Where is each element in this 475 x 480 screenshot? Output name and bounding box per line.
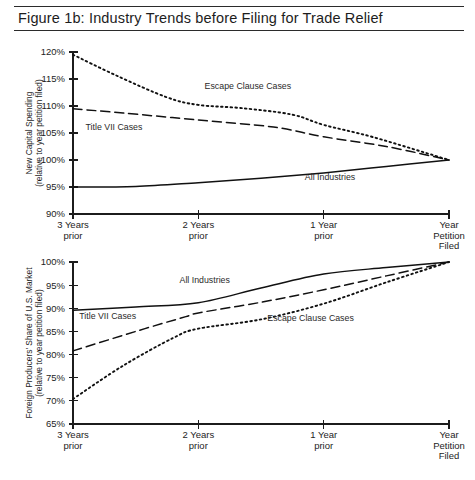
y-tick-label: 95% [46,280,66,291]
y-tick-label: 70% [46,395,66,406]
y-tick-label: 80% [46,349,66,360]
x-tick-label: prior [63,230,82,241]
chart-svg-top: 90%95%100%105%110%115%120%3 Yearsprior2 … [0,36,475,258]
x-tick-label: Petition [433,440,465,451]
y-tick-label: 120% [41,46,66,57]
y-axis-title-line1: Foreign Producers' Share of U.S. Market [24,267,34,419]
chart-panel-foreign-producers-share: 65%70%75%80%85%90%95%100%3 Yearsprior2 Y… [0,248,475,480]
series-line [73,262,449,310]
y-tick-label: 115% [41,73,65,84]
y-axis-title: Foreign Producers' Share of U.S. Market(… [24,267,44,419]
x-tick-label: prior [314,440,333,451]
x-tick-label: 2 Years [182,429,214,440]
y-tick-label: 90% [46,303,66,314]
x-tick-label: Filed [439,450,460,461]
y-tick-label: 90% [46,208,66,219]
figure-title: Figure 1b: Industry Trends before Filing… [18,10,464,26]
series-annotation: All Industries [305,172,356,182]
y-tick-label: 100% [41,256,66,267]
series-annotation: Title VII Cases [79,311,136,321]
series-line [73,262,449,399]
series-line [73,109,449,160]
y-tick-label: 100% [41,154,66,165]
series-line [73,262,449,351]
x-tick-label: 2 Years [182,219,214,230]
y-axis-title-line1: New Capital Spending [24,91,34,174]
y-tick-label: 110% [41,100,65,111]
y-axis-title-line2: (relative to year petition filed) [34,79,44,187]
series-line [73,55,449,160]
x-tick-label: 3 Years [57,429,89,440]
x-tick-label: 1 Year [310,219,337,230]
series-annotation: All Industries [180,275,231,285]
y-tick-label: 95% [46,181,66,192]
series-line [73,160,449,187]
y-axis-title-line2: (relative to year petition filed) [34,289,44,397]
x-tick-label: prior [314,230,333,241]
y-tick-label: 105% [41,127,66,138]
chart-panel-new-capital-spending: 90%95%100%105%110%115%120%3 Yearsprior2 … [0,36,475,258]
y-tick-label: 65% [46,418,66,429]
chart-svg-bottom: 65%70%75%80%85%90%95%100%3 Yearsprior2 Y… [0,248,475,480]
x-tick-label: prior [189,230,208,241]
series-annotation: Title VII Cases [86,122,143,132]
x-tick-label: prior [189,440,208,451]
y-tick-label: 75% [46,372,66,383]
x-tick-label: Year [439,429,458,440]
figure-title-band: Figure 1b: Industry Trends before Filing… [14,6,464,31]
x-tick-label: 3 Years [57,219,89,230]
x-tick-label: 1 Year [310,429,337,440]
figure-container: Figure 1b: Industry Trends before Filing… [0,0,475,480]
y-axis-title: New Capital Spending(relative to year pe… [24,79,44,187]
x-tick-label: Year [439,219,458,230]
series-annotation: Escape Clause Cases [267,313,354,323]
x-tick-label: Petition [433,230,465,241]
x-tick-label: prior [63,440,82,451]
series-annotation: Escape Clause Cases [205,81,292,91]
y-tick-label: 85% [46,326,66,337]
